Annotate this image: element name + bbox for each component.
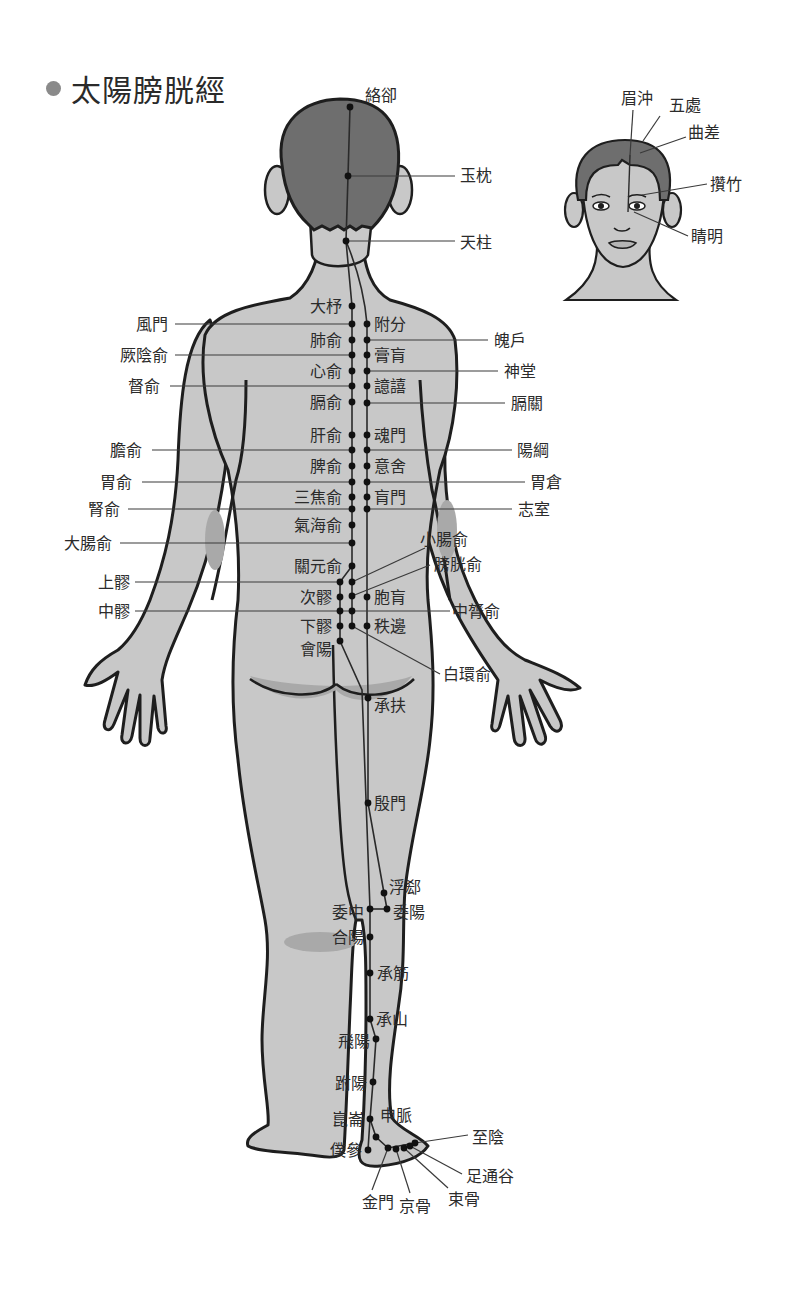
- acupoint-label: 氣海俞: [294, 516, 342, 535]
- acupoint-dot: [364, 383, 371, 390]
- acupoint-label: 膀胱俞: [434, 555, 482, 574]
- acupoint-dot: [337, 623, 344, 630]
- face-acupoint-label: 眉沖: [621, 89, 653, 108]
- acupoint-dot: [349, 399, 356, 406]
- acupoint-dot: [349, 303, 356, 310]
- acupoint-dot: [349, 608, 356, 615]
- acupoint-dot: [337, 579, 344, 586]
- acupoint-dot: [365, 1147, 372, 1154]
- acupoint-label: 下髎: [300, 617, 332, 636]
- acupoint-label: 風門: [136, 315, 168, 334]
- head-hair: [281, 99, 399, 230]
- acupoint-label: 殷門: [374, 794, 406, 813]
- acupoint-label: 上髎: [98, 573, 130, 592]
- acupoint-label: 浮郄: [389, 878, 421, 897]
- acupoint-label: 大腸俞: [64, 534, 112, 553]
- acupoint-label: 合陽: [332, 928, 364, 947]
- face-acupoint-label: 五處: [669, 96, 701, 115]
- acupoint-dot: [349, 432, 356, 439]
- acupoint-dot: [337, 638, 344, 645]
- acupoint-label: 小腸俞: [420, 530, 468, 549]
- acupoint-dot: [349, 593, 356, 600]
- acupoint-dot: [364, 447, 371, 454]
- acupoint-label: 僕參: [330, 1141, 362, 1160]
- acupoint-label: 膈關: [511, 394, 543, 413]
- acupoint-dot: [364, 594, 371, 601]
- acupoint-dot: [349, 506, 356, 513]
- acupoint-dot: [412, 1140, 419, 1147]
- acupoint-label: 附分: [374, 315, 406, 334]
- acupoint-dot: [349, 522, 356, 529]
- acupoint-label: 脾俞: [310, 457, 342, 476]
- acupoint-dot: [364, 506, 371, 513]
- acupoint-dot: [349, 563, 356, 570]
- acupoint-dot: [401, 1145, 408, 1152]
- acupoint-dot: [364, 494, 371, 501]
- acupoint-label: 中髎: [98, 602, 130, 621]
- acupoint-label: 委中: [332, 903, 364, 922]
- acupoint-label: 志室: [518, 500, 550, 519]
- acupoint-label: 申脈: [380, 1106, 412, 1125]
- acupoint-label: 腎俞: [88, 500, 120, 519]
- acupoint-label: 天柱: [460, 233, 492, 252]
- acupoint-label: 玉枕: [460, 166, 492, 185]
- acupoint-label: 肓門: [374, 488, 406, 507]
- acupoint-label: 膏肓: [374, 346, 406, 365]
- acupoint-label: 次髎: [300, 588, 332, 607]
- acupoint-label: 神堂: [504, 362, 536, 381]
- acupoint-dot: [365, 695, 372, 702]
- acupoint-dot: [393, 1146, 400, 1153]
- acupoint-label: 中膂俞: [452, 602, 500, 621]
- leader-line: [643, 116, 660, 141]
- acupoint-label: 心俞: [310, 362, 342, 381]
- acupoint-label: 崑崙: [332, 1110, 364, 1129]
- acupoint-dot: [343, 238, 350, 245]
- acupoint-dot: [349, 321, 356, 328]
- acupoint-dot: [364, 337, 371, 344]
- acupoint-label: 束骨: [448, 1190, 480, 1209]
- acupoint-dot: [349, 463, 356, 470]
- acupoint-dot: [349, 540, 356, 547]
- acupoint-dot: [367, 970, 374, 977]
- acupoint-dot: [364, 321, 371, 328]
- acupoint-label: 跗陽: [335, 1074, 367, 1093]
- acupoint-dot: [349, 337, 356, 344]
- acupoint-label: 胃倉: [530, 473, 562, 492]
- acupoint-label: 胞肓: [374, 588, 406, 607]
- acupoint-dot: [337, 594, 344, 601]
- acupoint-dot: [349, 479, 356, 486]
- acupoint-label: 厥陰俞: [120, 346, 168, 365]
- acupoint-dot: [349, 352, 356, 359]
- acupoint-label: 金門: [362, 1193, 394, 1212]
- acupoint-dot: [385, 1145, 392, 1152]
- acupoint-dot: [364, 432, 371, 439]
- acupoint-label: 承筋: [377, 964, 409, 983]
- acupoint-label: 關元俞: [294, 557, 342, 576]
- acupoint-dot: [381, 890, 388, 897]
- acupoint-dot: [364, 352, 371, 359]
- acupoint-dot: [365, 800, 372, 807]
- acupoint-label: 督俞: [128, 377, 160, 396]
- acupoint-dot: [370, 1079, 377, 1086]
- acupoint-dot: [337, 608, 344, 615]
- acupoint-dot: [347, 104, 354, 111]
- acupoint-dot: [364, 368, 371, 375]
- acupoint-dot: [373, 1036, 380, 1043]
- acupoint-label: 會陽: [300, 640, 332, 659]
- acupoint-dot: [349, 368, 356, 375]
- acupoint-dot: [367, 906, 374, 913]
- acupoint-label: 肝俞: [310, 426, 342, 445]
- acupoint-label: 白環俞: [443, 665, 491, 684]
- acupoint-label: 秩邊: [374, 617, 406, 636]
- acupoint-dot: [367, 934, 374, 941]
- acupoint-label: 足通谷: [466, 1167, 514, 1186]
- acupoint-label: 承山: [376, 1010, 408, 1029]
- acupoint-label: 飛陽: [338, 1032, 370, 1051]
- face-acupoint-label: 攢竹: [710, 175, 742, 194]
- meridian-diagram: 絡卻玉枕天柱大杼風門肺俞厥陰俞心俞督俞膈俞肝俞膽俞脾俞胃俞三焦俞腎俞氣海俞大腸俞…: [0, 0, 789, 1293]
- acupoint-label: 大杼: [310, 297, 342, 316]
- acupoint-dot: [364, 623, 371, 630]
- acupoint-label: 譩譆: [374, 377, 406, 396]
- acupoint-label: 絡卻: [365, 86, 397, 105]
- acupoint-dot: [373, 1134, 380, 1141]
